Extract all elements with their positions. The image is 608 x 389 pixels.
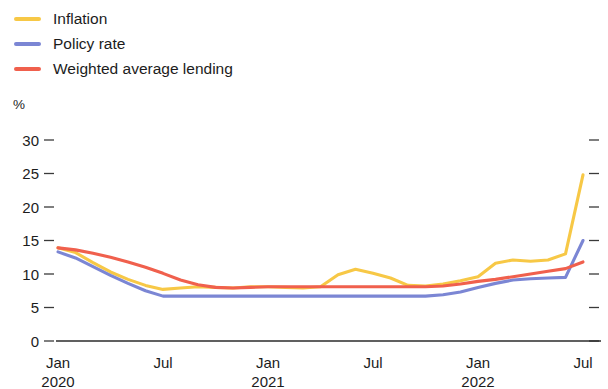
chart-plot-area: 051015202530 Jan2020JulJan2021JulJan2022… bbox=[0, 0, 608, 389]
y-tick-label-30: 30 bbox=[22, 132, 39, 149]
y-tick-label-15: 15 bbox=[22, 232, 39, 249]
inflation-policy-lending-chart: Inflation Policy rate Weighted average l… bbox=[0, 0, 608, 389]
y-axis-tick-labels: 051015202530 bbox=[22, 132, 39, 350]
y-tick-label-25: 25 bbox=[22, 165, 39, 182]
x-tick-label-5: Jul bbox=[573, 354, 592, 371]
y-tick-label-10: 10 bbox=[22, 266, 39, 283]
x-tick-label-4: Jan bbox=[466, 354, 490, 371]
y-axis-ticks-left bbox=[44, 140, 54, 341]
x-tick-label-3: Jul bbox=[363, 354, 382, 371]
y-tick-label-0: 0 bbox=[31, 333, 39, 350]
y-tick-label-20: 20 bbox=[22, 199, 39, 216]
x-tick-year-2: 2021 bbox=[251, 373, 284, 389]
x-axis-tick-labels: Jan2020JulJan2021JulJan2022Jul bbox=[41, 354, 592, 389]
x-tick-year-0: 2020 bbox=[41, 373, 74, 389]
series-lines bbox=[58, 175, 583, 296]
series-line-inflation bbox=[58, 175, 583, 290]
x-tick-label-1: Jul bbox=[153, 354, 172, 371]
y-tick-label-5: 5 bbox=[31, 299, 39, 316]
y-axis-ticks-right bbox=[589, 140, 599, 341]
x-tick-year-4: 2022 bbox=[461, 373, 494, 389]
x-tick-label-2: Jan bbox=[256, 354, 280, 371]
x-tick-label-0: Jan bbox=[46, 354, 70, 371]
